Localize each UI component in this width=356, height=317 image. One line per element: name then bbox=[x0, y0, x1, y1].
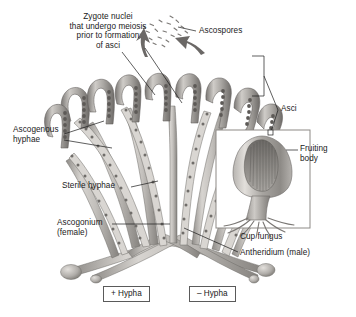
plus-hypha-bulb bbox=[61, 265, 82, 280]
ascomycete-life-cycle-figure: Zygote nucleithat undergo meiosisprior t… bbox=[0, 0, 356, 317]
label-zygote-nuclei-line2: that undergo meiosis bbox=[69, 22, 146, 31]
minus-hypha-bulb bbox=[257, 264, 275, 277]
cup-fungus-hymenium bbox=[244, 140, 278, 192]
label-ascogonium-line2: (female) bbox=[57, 228, 87, 237]
label-ascogonium-line1: Ascogonium bbox=[57, 218, 103, 227]
label-zygote-nuclei-line3: prior to formation bbox=[77, 31, 140, 40]
label-zygote-nuclei: Zygote nucleithat undergo meiosisprior t… bbox=[52, 12, 164, 50]
label-zygote-nuclei-line1: Zygote nuclei bbox=[83, 12, 132, 21]
label-plus-hypha: + Hypha bbox=[103, 286, 150, 302]
label-asci: Asci bbox=[281, 104, 297, 114]
leader-ascospores bbox=[178, 27, 196, 31]
label-fruiting-body: Fruitingbody bbox=[300, 144, 328, 163]
asci-location-marker bbox=[268, 130, 273, 135]
label-minus-hypha: – Hypha bbox=[189, 286, 236, 302]
cup-fungus-inset bbox=[216, 130, 310, 238]
label-sterile-hyphae: Sterile hyphae bbox=[62, 181, 115, 191]
label-ascogenous-hyphae-line2: hyphae bbox=[13, 135, 40, 144]
label-fruiting-body-line2: body bbox=[300, 154, 318, 163]
label-ascospores: Ascospores bbox=[199, 26, 242, 36]
label-cup-fungus: Cup fungus bbox=[240, 232, 282, 242]
label-antheridium: Antheridium (male) bbox=[240, 248, 310, 258]
label-ascogonium: Ascogonium(female) bbox=[57, 218, 103, 237]
label-ascogenous-hyphae: Ascogenoushyphae bbox=[13, 125, 59, 144]
basal-hyphae-group bbox=[72, 234, 264, 282]
label-zygote-nuclei-line4: of asci bbox=[96, 41, 120, 50]
label-ascogenous-hyphae-line1: Ascogenous bbox=[13, 125, 59, 134]
label-fruiting-body-line1: Fruiting bbox=[300, 144, 328, 153]
